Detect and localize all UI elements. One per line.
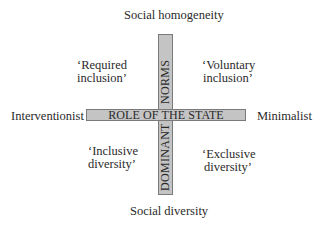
role-of-the-state-bar: ROLE OF THE STATE — [86, 109, 246, 121]
axis-label-top: Social homogeneity — [124, 9, 224, 22]
quadrant-top-left-line2: inclusion’ — [77, 72, 127, 85]
quadrant-bottom-right: ‘Exclusive diversity’ — [202, 148, 254, 174]
role-of-the-state-label: ROLE OF THE STATE — [87, 110, 245, 120]
quadrant-bottom-right-line2: diversity’ — [202, 161, 254, 174]
dominant-label: DOMINANT — [159, 123, 171, 191]
quadrant-top-left: ‘Required inclusion’ — [77, 59, 127, 85]
norms-label: NORMS — [159, 60, 171, 104]
axis-label-bottom: Social diversity — [130, 205, 208, 218]
quadrant-top-right: ‘Voluntary inclusion’ — [202, 59, 254, 85]
axis-label-left: Interventionist — [11, 110, 84, 123]
quadrant-bottom-left-line2: diversity’ — [88, 158, 138, 171]
quadrant-top-right-line2: inclusion’ — [202, 72, 254, 85]
axis-label-right: Minimalist — [257, 110, 312, 123]
quadrant-bottom-left: ‘Inclusive diversity’ — [88, 145, 138, 171]
